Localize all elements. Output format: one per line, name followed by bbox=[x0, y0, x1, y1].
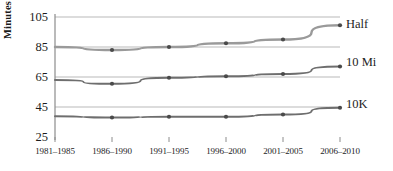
x-axis-ticks bbox=[55, 137, 340, 142]
x-tick-label-5: 2006–2010 bbox=[305, 146, 375, 156]
data-point bbox=[338, 23, 342, 27]
data-point bbox=[281, 37, 285, 41]
series-half bbox=[55, 23, 342, 52]
data-point bbox=[281, 112, 285, 116]
gridlines bbox=[55, 17, 340, 107]
data-point bbox=[110, 82, 114, 86]
data-point bbox=[110, 115, 114, 119]
data-point bbox=[224, 74, 228, 78]
data-point bbox=[167, 115, 171, 119]
data-point bbox=[110, 48, 114, 52]
data-point bbox=[167, 45, 171, 49]
data-point bbox=[167, 76, 171, 80]
series-line bbox=[55, 108, 340, 118]
series-line bbox=[55, 25, 340, 50]
data-point bbox=[338, 106, 342, 110]
data-point bbox=[281, 72, 285, 76]
line-chart: Minutes 105 85 65 45 25 1981–1985 1986–1… bbox=[0, 0, 393, 171]
series-layer bbox=[55, 23, 342, 119]
series-10-mi bbox=[55, 64, 342, 85]
series-label-10-mi: 10 Mi bbox=[346, 55, 376, 70]
series-10k bbox=[55, 106, 342, 120]
data-point bbox=[224, 115, 228, 119]
series-label-10k: 10K bbox=[346, 97, 368, 112]
data-point bbox=[338, 64, 342, 68]
data-point bbox=[224, 41, 228, 45]
series-line bbox=[55, 67, 340, 84]
series-label-half: Half bbox=[346, 17, 368, 32]
